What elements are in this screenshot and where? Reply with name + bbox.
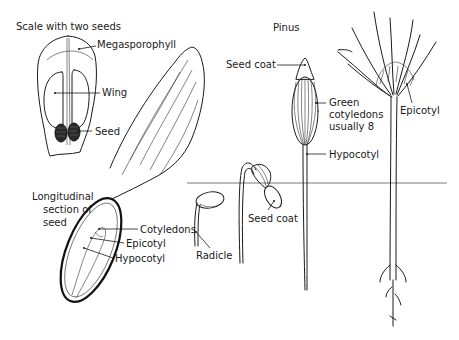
seed-wing-outline [110, 47, 204, 200]
label-hypocotyl: Hypocotyl [115, 253, 165, 264]
label-megasporophyll: Megasporophyll [97, 39, 176, 50]
germinating-seed-figure: Radicle [195, 190, 233, 261]
label-erect-seed-coat: Seed coat [226, 59, 276, 70]
label-section-line2: section of [43, 204, 92, 215]
diagram-title: Pinus [273, 22, 299, 33]
mature-cotyledons [338, 12, 436, 97]
mature-seedling-figure: Epicotyl [338, 12, 440, 326]
label-section-line1: Longitudinal [32, 191, 94, 202]
hooked-seedling-figure: Seed coat [239, 163, 298, 263]
pinus-seed-diagram: Pinus Scale with two seeds Megasporophyl… [0, 0, 459, 340]
mature-roots [380, 265, 406, 326]
mature-stem [390, 97, 397, 280]
label-radicle: Radicle [196, 250, 232, 261]
label-section-line3: seed [43, 217, 67, 228]
erect-seed-coat [296, 58, 314, 79]
erect-seedling-figure: Seed coat Green cotyledons usually 8 Hyp… [226, 58, 383, 290]
label-cotyledons-line2: cotyledons [329, 109, 383, 120]
wing-left [44, 72, 63, 128]
scale-heading: Scale with two seeds [16, 21, 121, 32]
label-erect-hypocotyl: Hypocotyl [329, 149, 379, 160]
scale-figure: Scale with two seeds Megasporophyll Wing… [16, 21, 176, 156]
seed-right [68, 123, 80, 141]
label-wing: Wing [102, 87, 127, 98]
erect-hypocotyl [303, 145, 307, 290]
label-epicotyl: Epicotyl [126, 238, 166, 249]
label-mature-epicotyl: Epicotyl [400, 105, 440, 116]
label-seed: Seed [95, 126, 120, 137]
label-hooked-seed-coat: Seed coat [248, 213, 298, 224]
label-cotyledons: Cotyledons [140, 224, 196, 235]
wing-right [72, 70, 89, 128]
seed-left [55, 124, 67, 142]
label-cotyledons-line3: usually 8 [329, 121, 374, 132]
label-cotyledons-line1: Green [329, 97, 359, 108]
